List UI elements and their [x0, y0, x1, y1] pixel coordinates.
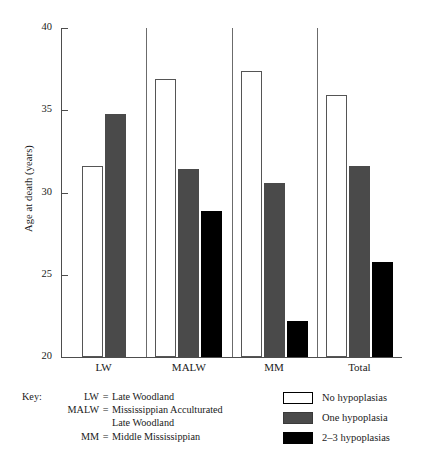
key-abbreviation: MALW — [51, 403, 99, 416]
key-definition: Late Woodland — [112, 390, 174, 403]
legend-item: No hypoplasias — [283, 389, 390, 407]
key-abbreviation: LW — [51, 390, 99, 403]
bar-mm-series3 — [287, 321, 308, 357]
key-definition-continuation: Late Woodland — [22, 416, 174, 429]
y-axis-tick — [61, 357, 68, 358]
group-separator — [232, 28, 233, 357]
legend-swatch-gray — [283, 412, 313, 424]
x-axis-label-mm: MM — [232, 362, 317, 373]
bar-chart: Age at death (years) 4035302520 LWMALWMM… — [0, 0, 424, 378]
plot-area — [61, 28, 402, 357]
legend-swatch-black — [283, 432, 313, 444]
key-lead-label: Key: — [22, 390, 51, 403]
group-separator — [317, 28, 318, 357]
y-axis-tick-label: 30 — [12, 187, 52, 198]
x-axis-line — [61, 357, 402, 358]
bar-malw-series1 — [155, 79, 176, 357]
group-separator — [146, 28, 147, 357]
legend-swatch-white — [283, 392, 313, 404]
legend-label: 2–3 hypoplasias — [322, 433, 390, 444]
bar-malw-series3 — [201, 211, 222, 357]
x-axis-label-lw: LW — [61, 362, 146, 373]
key-lead-label — [22, 430, 51, 443]
bar-malw-series2 — [178, 169, 199, 357]
x-axis-label-malw: MALW — [146, 362, 231, 373]
key-equals-sign: = — [99, 390, 112, 403]
key-row: MM=Middle Mississippian — [22, 430, 223, 443]
bar-lw-series2 — [105, 114, 126, 357]
bar-total-series3 — [372, 262, 393, 357]
key-abbreviation: MM — [51, 430, 99, 443]
y-axis-tick-label: 40 — [12, 22, 52, 33]
key-definition: Mississippian Acculturated — [112, 403, 223, 416]
key-equals-sign: = — [99, 430, 112, 443]
bar-mm-series2 — [264, 183, 285, 357]
chart-legend: No hypoplasiasOne hypoplasia2–3 hypoplas… — [283, 389, 390, 449]
key-equals-sign: = — [99, 403, 112, 416]
key-row: MALW=Mississippian Acculturated — [22, 403, 223, 416]
y-axis-tick-label: 20 — [12, 351, 52, 362]
x-axis-label-total: Total — [317, 362, 402, 373]
key-lead-label — [22, 403, 51, 416]
bar-lw-series1 — [82, 166, 103, 357]
y-axis-tick-label: 25 — [12, 269, 52, 280]
key-row: Late Woodland — [22, 416, 223, 429]
key-definition: Middle Mississippian — [112, 430, 200, 443]
legend-item: 2–3 hypoplasias — [283, 429, 390, 447]
y-axis-tick-label: 35 — [12, 104, 52, 115]
legend-label: One hypoplasia — [322, 413, 388, 424]
legend-item: One hypoplasia — [283, 409, 390, 427]
key-block: Key:LW=Late WoodlandMALW=Mississippian A… — [22, 390, 223, 443]
bar-mm-series1 — [241, 71, 262, 357]
key-row: Key:LW=Late Woodland — [22, 390, 223, 403]
bar-total-series2 — [349, 166, 370, 357]
bar-total-series1 — [326, 95, 347, 357]
legend-label: No hypoplasias — [322, 393, 387, 404]
